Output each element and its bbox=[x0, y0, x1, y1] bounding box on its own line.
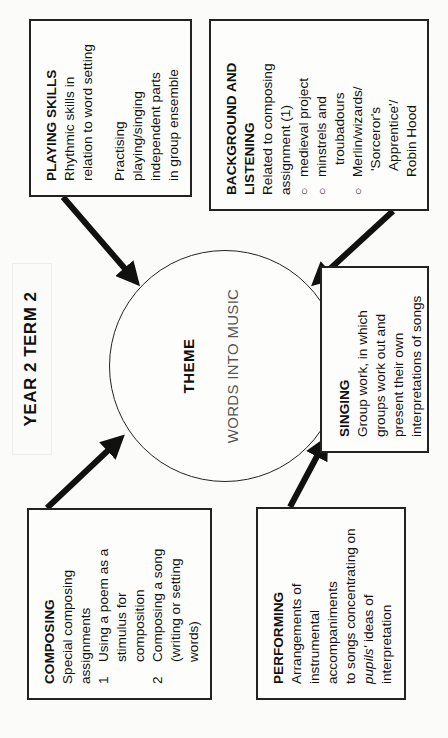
background-title: LISTENING bbox=[241, 31, 259, 195]
page: YEAR 2 TERM 2 THEME WORDS INTO MUSIC bbox=[0, 0, 448, 738]
list-number: 2 bbox=[149, 662, 203, 684]
arrow-composing bbox=[47, 442, 117, 508]
diagram-canvas-rotated: YEAR 2 TERM 2 THEME WORDS INTO MUSIC bbox=[0, 0, 448, 738]
performing-text: pupils' ideas of bbox=[360, 519, 378, 684]
playing-skills-text: Rhythmic skills in bbox=[61, 31, 79, 181]
performing-text: to songs concentrating on bbox=[342, 519, 360, 684]
theme-subtitle: WORDS INTO MUSIC bbox=[224, 251, 241, 481]
background-title: BACKGROUND AND bbox=[223, 31, 241, 195]
performing-text: Arrangements of bbox=[288, 519, 306, 684]
list-item: ○ medieval project bbox=[295, 31, 313, 195]
performing-text: accompaniments bbox=[324, 519, 342, 684]
circle-bullet-icon: ○ bbox=[349, 177, 421, 195]
arrow-playing-skills bbox=[63, 197, 133, 278]
playing-skills-text: in group ensemble bbox=[165, 31, 183, 181]
playing-skills-title: PLAYING SKILLS bbox=[43, 31, 61, 181]
list-item: ○ Merlin/wizards/ 'Sorceror's Apprentice… bbox=[349, 31, 421, 195]
singing-text: interpretations of songs bbox=[408, 278, 426, 437]
theme-title: THEME bbox=[180, 251, 197, 481]
background-listening-box: BACKGROUND AND LISTENING Related to comp… bbox=[209, 19, 429, 211]
singing-text: groups work out and bbox=[372, 278, 390, 437]
singing-text: present their own bbox=[390, 278, 408, 437]
performing-title: PERFORMING bbox=[270, 519, 288, 684]
composing-box: COMPOSING Special composing assignments … bbox=[27, 508, 212, 700]
playing-skills-box: PLAYING SKILLS Rhythmic skills in relati… bbox=[29, 19, 192, 197]
list-number: 1 bbox=[95, 662, 149, 684]
list-item: ○ minstrels and troubadours bbox=[313, 31, 349, 195]
composing-intro: Special composing bbox=[59, 520, 77, 684]
background-list: ○ medieval project ○ minstrels and troub… bbox=[295, 31, 421, 195]
singing-title: SINGING bbox=[336, 278, 354, 437]
playing-skills-text: independent parts bbox=[147, 31, 165, 181]
performing-box: PERFORMING Arrangements of instrumental … bbox=[256, 507, 406, 700]
playing-skills-text: Practising bbox=[111, 31, 129, 181]
theme-circle: THEME WORDS INTO MUSIC bbox=[109, 250, 341, 482]
circle-bullet-icon: ○ bbox=[313, 177, 349, 195]
background-intro: Related to composing bbox=[259, 31, 277, 195]
playing-skills-text: relation to word setting bbox=[79, 31, 97, 181]
list-item: 2 Composing a song (writing or setting w… bbox=[149, 520, 203, 684]
year-term-heading: YEAR 2 TERM 2 bbox=[21, 264, 41, 454]
singing-text: Group work, in which bbox=[354, 278, 372, 437]
circle-bullet-icon: ○ bbox=[295, 177, 313, 195]
year-term-frame: YEAR 2 TERM 2 bbox=[12, 263, 52, 455]
singing-box: SINGING Group work, in which groups work… bbox=[320, 266, 429, 453]
playing-skills-text: playing/singing bbox=[129, 31, 147, 181]
background-intro: assignment (1) bbox=[277, 31, 295, 195]
list-item: 1 Using a poem as a stimulus for composi… bbox=[95, 520, 149, 684]
performing-text: interpretation bbox=[378, 519, 396, 684]
composing-title: COMPOSING bbox=[41, 520, 59, 684]
performing-text: instrumental bbox=[306, 519, 324, 684]
composing-intro: assignments bbox=[77, 520, 95, 684]
composing-list: 1 Using a poem as a stimulus for composi… bbox=[95, 520, 203, 684]
